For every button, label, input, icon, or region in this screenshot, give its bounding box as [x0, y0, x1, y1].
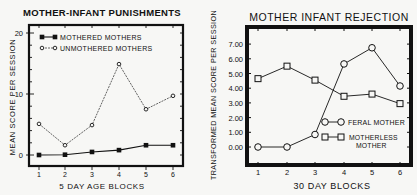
y-axis-label: TRANSFORMED MEAN SCORE PER SESSION	[209, 10, 218, 180]
open-circle-marker-icon	[341, 61, 348, 68]
open-circle-marker-icon	[144, 107, 148, 111]
charts-figure: MOTHER-INFANT PUNISHMENTS010201234565 DA…	[0, 0, 417, 195]
chart-title: MOTHER INFANT REJECTION	[249, 11, 408, 23]
legend: MOTHERED MOTHERSUNMOTHERED MOTHERS	[40, 34, 153, 52]
y-tick-label: 7.00	[228, 40, 243, 49]
filled-square-marker-icon	[37, 153, 42, 158]
open-circle-marker-icon	[117, 62, 121, 66]
y-tick-label: 2.00	[228, 114, 243, 123]
legend-label-unmothered: UNMOTHERED MOTHERS	[60, 45, 153, 52]
filled-square-marker-icon	[171, 143, 176, 148]
open-square-marker-icon	[312, 77, 318, 83]
open-square-marker-icon	[255, 76, 261, 82]
y-tick-label: 3.00	[228, 99, 243, 108]
filled-square-marker-icon	[53, 35, 58, 40]
x-tick-label: 5	[370, 168, 374, 177]
open-circle-marker-icon	[369, 44, 376, 51]
chart-title: MOTHER-INFANT PUNISHMENTS	[23, 7, 181, 18]
open-square-marker-icon	[397, 101, 403, 107]
open-square-marker-icon	[341, 93, 347, 99]
x-tick-label: 1	[37, 171, 41, 178]
x-tick-label: 1	[256, 168, 260, 177]
x-tick-label: 3	[90, 171, 94, 178]
filled-square-marker-icon	[144, 143, 149, 148]
open-circle-marker-icon	[397, 83, 404, 90]
open-circle-marker-icon	[53, 46, 57, 50]
open-circle-marker-icon	[171, 94, 175, 98]
x-tick-label: 5	[144, 171, 148, 178]
y-tick-label: 4.00	[228, 84, 243, 93]
open-square-marker-icon	[322, 134, 328, 140]
x-tick-label: 2	[285, 168, 289, 177]
open-square-marker-icon	[338, 134, 344, 140]
open-circle-marker-icon	[40, 46, 44, 50]
filled-square-marker-icon	[40, 35, 45, 40]
y-tick-label: 20	[15, 29, 23, 38]
filled-square-marker-icon	[117, 148, 122, 153]
x-axis-label: 5 DAY AGE BLOCKS	[59, 182, 144, 191]
y-tick-label: 1.00	[228, 128, 243, 137]
punishments-chart: MOTHER-INFANT PUNISHMENTS010201234565 DA…	[8, 7, 183, 191]
feral-mother-line	[258, 48, 400, 147]
open-circle-marker-icon	[338, 119, 345, 126]
open-square-marker-icon	[369, 91, 375, 97]
x-tick-label: 2	[63, 171, 67, 178]
open-circle-marker-icon	[284, 144, 291, 151]
y-tick-label: 5.00	[228, 70, 243, 79]
y-axis-label: MEAN SCORE PER SESSION	[8, 39, 17, 156]
open-circle-marker-icon	[90, 123, 94, 127]
x-axis-label: 30 DAY BLOCKS	[293, 181, 370, 191]
filled-square-marker-icon	[63, 152, 68, 157]
x-tick-label: 6	[398, 168, 402, 177]
y-tick-label: 0	[19, 151, 23, 160]
legend-label-motherless: MOTHERLESSMOTHER	[349, 134, 398, 149]
filled-square-marker-icon	[90, 150, 95, 155]
legend-label-feral: FERAL MOTHER	[348, 119, 405, 126]
x-tick-label: 3	[313, 168, 317, 177]
open-circle-marker-icon	[63, 143, 67, 147]
open-circle-marker-icon	[322, 119, 329, 126]
legend: FERAL MOTHERMOTHERLESSMOTHER	[322, 119, 405, 149]
open-square-marker-icon	[284, 63, 290, 69]
x-tick-label: 6	[171, 171, 175, 178]
y-tick-label: 0.00	[228, 143, 243, 152]
open-circle-marker-icon	[37, 122, 41, 126]
unmothered-mothers-line	[39, 64, 173, 145]
mothered-mothers-line	[39, 145, 173, 155]
x-tick-label: 4	[117, 171, 121, 178]
open-circle-marker-icon	[312, 131, 319, 138]
rejection-chart: MOTHER INFANT REJECTION0.001.002.003.004…	[209, 10, 411, 191]
open-circle-marker-icon	[255, 144, 262, 151]
y-tick-label: 6.00	[228, 55, 243, 64]
legend-label-mothered: MOTHERED MOTHERS	[60, 34, 142, 41]
motherless-mother-line	[258, 66, 400, 103]
x-tick-label: 4	[342, 168, 346, 177]
